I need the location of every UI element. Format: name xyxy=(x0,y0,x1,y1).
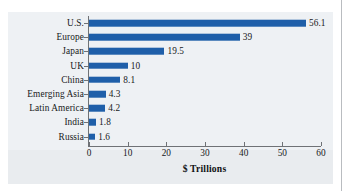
bar xyxy=(89,91,106,98)
bar-value-label: 10 xyxy=(131,61,141,71)
bar-row: Emerging Asia4.3 xyxy=(0,87,348,101)
bar-row: Russia1.6 xyxy=(0,130,348,144)
category-label-europe: Europe xyxy=(57,32,84,42)
category-label-u-s: U.S. xyxy=(67,18,84,28)
x-axis-tick-label: 30 xyxy=(200,148,209,158)
x-axis-tick-label: 20 xyxy=(162,148,171,158)
x-axis-tick xyxy=(128,142,129,146)
y-axis-tick xyxy=(84,108,88,109)
bar-value-label: 56.1 xyxy=(309,18,326,28)
bar xyxy=(89,133,95,140)
bar-value-label: 1.6 xyxy=(98,132,110,142)
bar-value-label: 19.5 xyxy=(167,46,184,56)
x-axis-tick-label: 50 xyxy=(278,148,287,158)
y-axis-tick xyxy=(84,66,88,67)
bar-value-label: 8.1 xyxy=(123,75,135,85)
bar-row: Europe39 xyxy=(0,30,348,44)
figure-container: U.S.56.1Europe39Japan19.5UK10China8.1Eme… xyxy=(0,0,348,191)
bar xyxy=(89,20,306,27)
category-label-uk: UK xyxy=(70,61,84,71)
x-axis-tick-label: 40 xyxy=(239,148,248,158)
y-axis-tick xyxy=(84,37,88,38)
bar xyxy=(89,105,105,112)
x-axis-tick xyxy=(166,142,167,146)
x-axis-tick xyxy=(89,142,90,146)
bar-value-label: 4.2 xyxy=(108,103,120,113)
bar xyxy=(89,77,120,84)
x-axis-tick xyxy=(321,142,322,146)
category-label-china: China xyxy=(61,75,84,85)
bar-row: China8.1 xyxy=(0,73,348,87)
x-axis-tick xyxy=(244,142,245,146)
category-label-japan: Japan xyxy=(62,46,84,56)
x-axis-tick-label: 60 xyxy=(316,148,325,158)
bar xyxy=(89,34,240,41)
x-axis-line xyxy=(88,146,321,147)
bar-row: India1.8 xyxy=(0,115,348,129)
bar-chart-plot: U.S.56.1Europe39Japan19.5UK10China8.1Eme… xyxy=(0,0,348,191)
y-axis-tick xyxy=(84,137,88,138)
y-axis-tick xyxy=(84,51,88,52)
bar-row: UK10 xyxy=(0,59,348,73)
category-label-india: India xyxy=(64,117,84,127)
bar xyxy=(89,62,128,69)
bar xyxy=(89,119,96,126)
y-axis-tick xyxy=(84,94,88,95)
x-axis-tick-label: 10 xyxy=(123,148,132,158)
bar-value-label: 1.8 xyxy=(99,117,111,127)
x-axis-tick xyxy=(205,142,206,146)
x-axis-tick-label: 0 xyxy=(87,148,92,158)
bar-value-label: 39 xyxy=(243,32,253,42)
x-axis-title: $ Trillions xyxy=(88,163,321,174)
bar-row: Japan19.5 xyxy=(0,44,348,58)
category-label-russia: Russia xyxy=(59,132,84,142)
bar-row: U.S.56.1 xyxy=(0,16,348,30)
y-axis-tick xyxy=(84,23,88,24)
category-label-emerging-asia: Emerging Asia xyxy=(27,89,84,99)
bar-value-label: 4.3 xyxy=(109,89,121,99)
category-label-latin-america: Latin America xyxy=(29,103,84,113)
x-axis-tick xyxy=(282,142,283,146)
y-axis-tick xyxy=(84,122,88,123)
bar-row: Latin America4.2 xyxy=(0,101,348,115)
y-axis-tick xyxy=(84,80,88,81)
bar xyxy=(89,48,164,55)
